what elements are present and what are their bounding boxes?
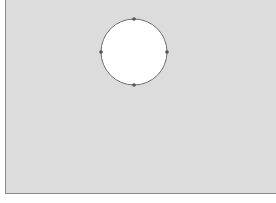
- resize-handle-top[interactable]: [132, 17, 136, 21]
- shape-layer: [0, 0, 276, 203]
- resize-handle-bottom[interactable]: [132, 83, 136, 87]
- resize-handle-right[interactable]: [165, 50, 169, 54]
- circle-shape[interactable]: [101, 19, 167, 85]
- resize-handle-left[interactable]: [99, 50, 103, 54]
